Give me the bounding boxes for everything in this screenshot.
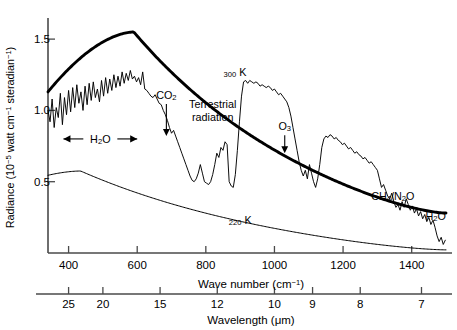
svg-text:H2O: H2O (90, 133, 110, 146)
x-axis-group: 400600800100012001400 (48, 246, 452, 271)
x-axis-title: Wave number (cm−1) (198, 278, 304, 290)
svg-text:O3: O3 (278, 120, 291, 133)
svg-text:CH4/N2O: CH4/N2O (371, 190, 414, 203)
annotation-t220: 220 K (229, 214, 253, 227)
annotation-t300: 300 K (224, 66, 248, 79)
figure-root: 0.51.01.5 400600800100012001400 25201512… (0, 0, 457, 330)
x-tick-label: 600 (128, 259, 147, 271)
spectrum-chart: 0.51.01.5 400600800100012001400 25201512… (0, 0, 457, 330)
x-tick-label: 400 (59, 259, 78, 271)
planck-curve-220k (48, 171, 446, 250)
wavelength-tick-label: 8 (357, 298, 363, 310)
wavelength-tick-label: 15 (154, 298, 167, 310)
wavelength-axis-title: Wavelength (μm) (207, 314, 295, 326)
svg-text:CO2: CO2 (156, 89, 176, 102)
annotations-layer: H2OCO2O3Terrestrialradiation300 K220 KCH… (63, 66, 445, 228)
wavelength-tick-label: 10 (268, 298, 281, 310)
svg-text:220 K: 220 K (229, 214, 253, 227)
y-axis-ticks: 0.51.01.5 (34, 33, 55, 188)
wavelength-axis-ticks: 2520151210987 (62, 287, 425, 310)
y-tick-label: 1.5 (34, 33, 50, 45)
planck-curve-300k (48, 32, 446, 213)
wavelength-axis-group: 2520151210987 (36, 287, 452, 310)
y-tick-label: 0.5 (34, 176, 50, 188)
x-tick-label: 1200 (330, 259, 356, 271)
wavelength-tick-label: 20 (96, 298, 109, 310)
x-tick-label: 1400 (399, 259, 425, 271)
annotation-o3: O3 (278, 120, 291, 153)
wavelength-tick-label: 9 (309, 298, 315, 310)
x-tick-label: 800 (196, 259, 215, 271)
annotation-terrestrial: Terrestrialradiation (189, 98, 236, 123)
x-axis-ticks: 400600800100012001400 (59, 246, 424, 271)
wavelength-tick-label: 7 (418, 298, 424, 310)
svg-text:Terrestrial: Terrestrial (189, 98, 236, 110)
x-tick-label: 1000 (262, 259, 288, 271)
annotation-co2: CO2 (156, 89, 176, 136)
y-axis-title: Radiance (10−5 watt cm−1 steradian−1) (4, 47, 16, 228)
wavelength-tick-label: 12 (211, 298, 224, 310)
svg-text:radiation: radiation (192, 111, 233, 123)
y-axis-group: 0.51.01.5 (34, 18, 55, 253)
annotation-ch4n2o: CH4/N2O (371, 190, 414, 203)
annotation-h2o-left: H2O (63, 133, 137, 146)
wavelength-tick-label: 25 (62, 298, 75, 310)
svg-text:300 K: 300 K (224, 66, 248, 79)
svg-text:Radiance (10−5 watt cm−1 stera: Radiance (10−5 watt cm−1 steradian−1) (4, 47, 16, 228)
